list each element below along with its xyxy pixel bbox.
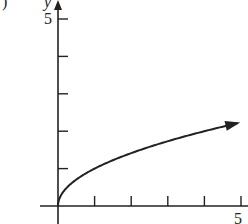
x-max-label: 5 <box>234 211 242 224</box>
y-axis-label: y <box>44 0 51 10</box>
y-ticks <box>58 19 68 169</box>
curve-arrow-icon <box>225 121 241 131</box>
part-marker: ) <box>2 0 7 10</box>
sqrt-curve <box>58 123 237 206</box>
x-ticks <box>95 196 241 206</box>
chart-canvas <box>0 0 248 224</box>
y-axis-arrow-icon <box>54 0 62 10</box>
y-max-label: 5 <box>44 11 52 27</box>
